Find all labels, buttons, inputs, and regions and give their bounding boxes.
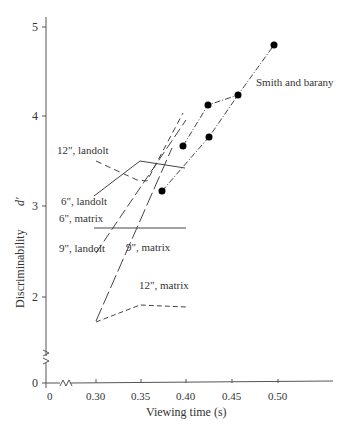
y-tick-3: 3 — [32, 199, 38, 213]
label-smith-barany: Smith and barany — [256, 76, 334, 88]
x-axis — [46, 379, 333, 386]
data-point — [271, 42, 278, 49]
series-12in-landolt — [96, 113, 183, 181]
label-6in-landolt: 6", landolt — [61, 195, 107, 207]
data-point — [159, 188, 166, 195]
x-tick-035: 0.35 — [131, 390, 151, 402]
y-axis-label: Discriminability — [13, 229, 27, 308]
y-axis-symbol: d' — [13, 197, 27, 206]
x-tick-050: 0.50 — [268, 390, 288, 402]
label-9in-landolt: 9", landolt — [59, 242, 105, 254]
y-tick-0: 0 — [32, 376, 38, 390]
data-point — [206, 134, 213, 141]
series-smith-upper — [183, 45, 274, 146]
discriminability-chart: 5 4 3 2 0 0 0.30 0.35 0.40 0.45 0.50 Vie… — [0, 0, 346, 426]
x-tick-040: 0.40 — [176, 390, 196, 402]
label-12in-matrix: 12", matrix — [139, 279, 189, 291]
y-tick-5: 5 — [32, 20, 38, 34]
y-tick-2: 2 — [32, 290, 38, 304]
data-point — [180, 143, 187, 150]
series-smith-lower — [162, 95, 238, 191]
label-6in-matrix: 6", matrix — [59, 212, 104, 224]
series-12in-matrix — [96, 305, 186, 322]
data-point — [235, 92, 242, 99]
smith-markers — [159, 42, 278, 195]
y-tick-4: 4 — [32, 109, 38, 123]
label-9in-matrix: 9", matrix — [126, 241, 171, 253]
x-tick-045: 0.45 — [222, 390, 242, 402]
data-point — [205, 102, 212, 109]
x-tick-0: 0 — [47, 390, 53, 402]
y-axis — [42, 17, 49, 388]
series-9in-matrix — [96, 148, 172, 321]
label-12in-landolt: 12", landolt — [57, 144, 109, 156]
x-tick-030: 0.30 — [86, 390, 106, 402]
series-9in-landolt — [96, 120, 186, 253]
x-axis-label: Viewing time (s) — [146, 405, 227, 419]
